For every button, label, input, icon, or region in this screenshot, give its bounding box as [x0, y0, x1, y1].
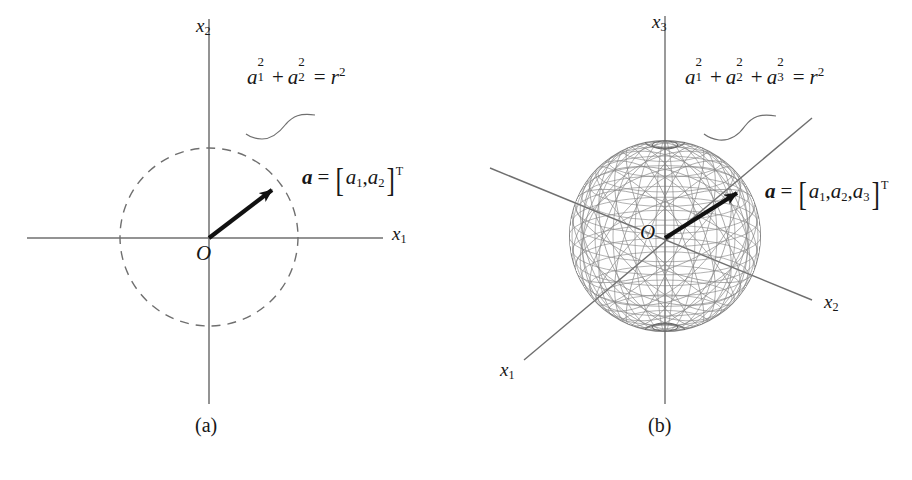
bracket-close: ] — [871, 177, 879, 211]
term-a3: a — [767, 65, 778, 89]
panel-b-caption: (b) — [648, 415, 671, 435]
panel-b-vector-label: a=[a1,a2,a3]T — [765, 177, 888, 211]
bracket-open: [ — [799, 177, 807, 211]
panel-a-axis-x2-sub: 2 — [204, 24, 210, 38]
op-plus-1: + — [268, 65, 288, 89]
term-a2: a — [288, 65, 299, 89]
panel-a-axis-x1-sub: 1 — [400, 232, 406, 246]
panel-a-axis-label-x2: x2 — [196, 16, 211, 37]
component-a1: a — [346, 165, 357, 189]
transpose-marker: T — [881, 178, 888, 192]
term-a1-scripts: 21 — [696, 63, 707, 84]
vector-equals: = — [313, 165, 335, 189]
term-r: r — [331, 65, 339, 89]
panel-b-axis-x2-sub: 2 — [832, 300, 838, 314]
term-a1: a — [247, 65, 258, 89]
term-a2-scripts: 22 — [736, 63, 747, 84]
panel-a-equation: a21+a22=r2 — [247, 63, 345, 88]
panel-b-axis-label-x1: x1 — [500, 360, 515, 381]
component-a2-sub: 2 — [378, 176, 384, 190]
term-r-sup: 2 — [339, 64, 346, 79]
panel-b-equation: a21+a22+a23=r2 — [685, 63, 824, 88]
panel-a-origin-label: O — [196, 243, 211, 264]
vector-symbol-a: a — [765, 179, 776, 203]
term-a2-scripts: 22 — [298, 63, 309, 84]
panel-b-axis-label-x2: x2 — [824, 292, 839, 313]
panel-a-axis-label-x1: x1 — [392, 224, 407, 245]
vector-symbol-a: a — [302, 165, 313, 189]
figure-root: x2 x1 O a21+a22=r2 a=[a1,a2]T (a) x3 x2 … — [0, 0, 912, 480]
op-plus-2: + — [747, 65, 767, 89]
panel-a-vector-arrow — [209, 190, 272, 238]
term-a2: a — [726, 65, 737, 89]
bracket-open: [ — [336, 163, 344, 197]
vector-equals: = — [776, 179, 798, 203]
panel-b-leader-line — [704, 115, 776, 140]
panel-a-vector-label: a=[a1,a2]T — [302, 163, 403, 197]
op-equals-1: = — [788, 65, 810, 89]
component-a2: a — [368, 165, 379, 189]
panel-b-origin-label: O — [640, 222, 655, 243]
term-a1: a — [685, 65, 696, 89]
bracket-close: ] — [386, 163, 394, 197]
op-equals-1: = — [309, 65, 331, 89]
component-a2: a — [831, 179, 842, 203]
panel-b-axis-label-x3: x3 — [652, 12, 667, 33]
panel-b-axis-x1-sub: 1 — [508, 368, 514, 382]
term-r-sup: 2 — [818, 64, 825, 79]
panel-a-leader-line — [246, 114, 315, 139]
term-a3-scripts: 23 — [777, 63, 788, 84]
term-a1-scripts: 21 — [258, 63, 269, 84]
op-plus-1: + — [706, 65, 726, 89]
component-a3-sub: 3 — [863, 190, 869, 204]
component-a3: a — [853, 179, 864, 203]
term-r: r — [810, 65, 818, 89]
panel-b-axis-x3-sub: 3 — [660, 20, 666, 34]
component-a1: a — [809, 179, 820, 203]
panel-a-caption: (a) — [195, 415, 217, 435]
transpose-marker: T — [396, 164, 403, 178]
